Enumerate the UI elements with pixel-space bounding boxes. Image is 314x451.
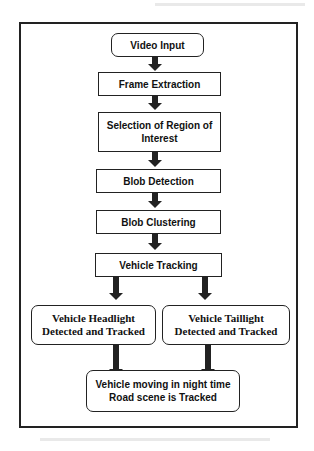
arrow-down-icon xyxy=(152,234,158,244)
arrow-down-icon xyxy=(113,345,119,370)
arrow-down-icon xyxy=(152,152,158,161)
node-label-line1: Vehicle Taillight xyxy=(188,312,264,325)
arrow-down-icon xyxy=(152,57,158,65)
arrow-down-icon xyxy=(152,96,158,104)
node-taillight: Vehicle Taillight Detected and Tracked xyxy=(162,305,290,345)
node-label: Blob Detection xyxy=(123,175,194,188)
bleed-through-text xyxy=(40,438,270,441)
node-label: Video Input xyxy=(130,39,184,52)
node-video-input: Video Input xyxy=(111,33,204,57)
node-label-line1: Vehicle Headlight xyxy=(52,312,135,325)
node-roi-selection: Selection of Region of Interest xyxy=(98,112,221,152)
node-final: Vehicle moving in night time Road scene … xyxy=(86,370,240,412)
node-label-line2: Detected and Tracked xyxy=(175,325,278,338)
node-label: Blob Clustering xyxy=(121,216,195,229)
node-headlight: Vehicle Headlight Detected and Tracked xyxy=(31,305,156,345)
node-label: Vehicle Tracking xyxy=(119,259,197,272)
node-blob-detection: Blob Detection xyxy=(96,169,221,193)
node-label-line2: Road scene is Tracked xyxy=(109,391,217,404)
node-blob-clustering: Blob Clustering xyxy=(96,210,221,234)
node-label-line2: Interest xyxy=(141,132,177,145)
arrow-down-icon xyxy=(113,277,119,294)
node-frame-extraction: Frame Extraction xyxy=(98,72,221,96)
arrow-down-icon xyxy=(205,345,211,370)
arrow-down-icon xyxy=(202,277,208,294)
node-label: Frame Extraction xyxy=(119,78,201,91)
bleed-through-text xyxy=(155,3,305,6)
node-label-line1: Vehicle moving in night time xyxy=(95,378,230,391)
node-label-line1: Selection of Region of xyxy=(107,119,213,132)
node-vehicle-tracking: Vehicle Tracking xyxy=(95,253,222,277)
node-label-line2: Detected and Tracked xyxy=(42,325,145,338)
arrow-down-icon xyxy=(152,193,158,202)
